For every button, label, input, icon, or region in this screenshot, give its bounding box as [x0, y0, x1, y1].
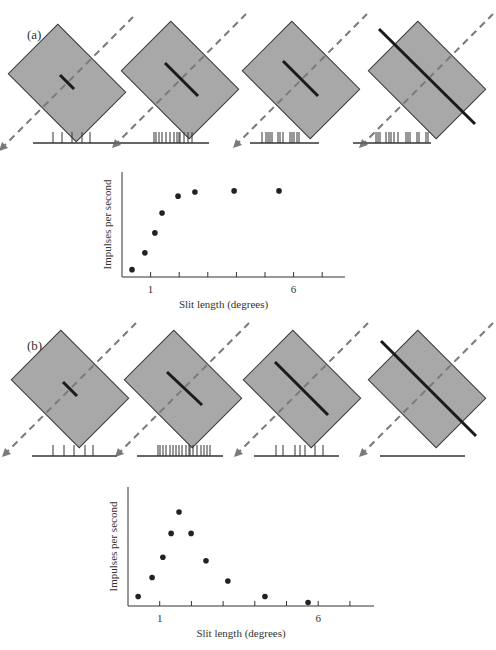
arrow-head-icon	[359, 448, 368, 457]
y-axis-label-b: Impulses per second	[107, 501, 119, 591]
x-tick-label: 1	[148, 283, 154, 295]
receptive-field-a-4	[368, 21, 485, 138]
arrow-head-icon	[0, 142, 8, 151]
x-tick-label: 1	[157, 612, 163, 624]
data-point	[135, 594, 141, 600]
x-tick-label: 6	[315, 612, 321, 624]
arrow-head-icon	[233, 139, 242, 148]
x-tick-label: 6	[291, 283, 297, 295]
y-axis-label-a: Impulses per second	[101, 179, 113, 269]
arrow-head-icon	[2, 448, 11, 457]
x-axis-label-a: Slit length (degrees)	[179, 298, 269, 311]
data-point	[142, 250, 148, 256]
data-point	[276, 188, 282, 194]
data-point	[159, 210, 165, 216]
data-point	[160, 554, 166, 560]
data-point	[231, 188, 237, 194]
data-point	[188, 531, 194, 537]
data-point	[149, 575, 155, 581]
data-point	[152, 230, 158, 236]
data-point	[175, 193, 181, 199]
data-point	[262, 594, 268, 600]
stimuli-row-a: 16Slit length (degrees)Impulses per seco…	[0, 0, 496, 650]
data-point	[129, 267, 135, 273]
data-point	[203, 558, 209, 564]
data-point	[192, 189, 198, 195]
data-point	[225, 578, 231, 584]
data-point	[168, 531, 174, 537]
data-point	[176, 509, 182, 515]
arrow-head-icon	[234, 448, 243, 457]
data-point	[305, 600, 311, 606]
x-axis-label-b: Slit length (degrees)	[196, 627, 286, 640]
figure: (a) (b) 16Slit length (degrees)Impulses …	[0, 0, 496, 650]
